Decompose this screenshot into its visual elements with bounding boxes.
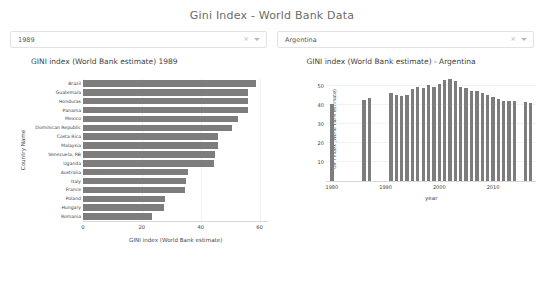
bar[interactable] [83,98,248,105]
bar-row[interactable]: Dominican Republic [83,124,268,131]
bar[interactable] [481,93,484,181]
y-tick-label: 20 [318,140,327,146]
bar[interactable] [438,84,441,181]
bar-row[interactable]: Uganda [83,160,268,167]
bar[interactable] [83,125,232,132]
bar[interactable] [83,187,185,194]
bar[interactable] [416,87,419,181]
bar[interactable] [529,103,532,181]
country-select-value: Argentina [278,36,317,44]
bar[interactable] [411,89,414,181]
x-tick-label: 0 [81,224,84,230]
bar-category-label: Romania [61,213,83,220]
gini-by-country-chart: GINI index (World Bank estimate) 1989 Co… [0,55,292,221]
bar[interactable] [459,87,462,181]
hbar-bars: BrazilGuatemalaHondurasPanamaMexicoDomin… [83,79,268,221]
x-axis: 1980199020002010 [326,181,536,182]
country-select-icons: × [510,36,533,43]
bar-row[interactable]: France [83,186,268,193]
chevron-down-icon[interactable] [521,38,527,41]
country-select[interactable]: Argentina × [277,31,534,48]
bar-row[interactable]: Panama [83,107,268,114]
bar-row[interactable]: Venezuela, RB [83,151,268,158]
bar[interactable] [362,100,365,181]
x-axis-label: year [326,195,536,201]
bar-category-label: Venezuela, RB [48,151,83,158]
bar-category-label: Honduras [59,98,83,105]
chevron-down-icon[interactable] [254,38,260,41]
hbar-plot-area: Country Name BrazilGuatemalaHondurasPana… [26,79,292,221]
bar[interactable] [502,101,505,181]
y-tick-label: 40 [318,102,327,108]
bar[interactable] [83,169,188,176]
gini-timeseries-chart: GINI index (World Bank estimate) - Argen… [292,55,544,221]
bar[interactable] [448,79,451,181]
bar-category-label: Australia [61,169,83,176]
bar-row[interactable]: Romania [83,213,268,220]
bar-row[interactable]: Poland [83,195,268,202]
y-gridline [326,85,536,86]
bar[interactable] [83,178,186,185]
bar[interactable] [83,196,165,203]
year-select-icons: × [243,36,266,43]
bar[interactable] [497,99,500,181]
bar-row[interactable]: Australia [83,169,268,176]
bar-category-label: Dominican Republic [35,124,83,131]
bar[interactable] [83,151,215,158]
bar-category-label: Hungary [61,204,83,211]
bar-row[interactable]: Malaysia [83,142,268,149]
bar-category-label: Italy [71,178,83,185]
bar[interactable] [330,104,333,181]
bar[interactable] [83,89,248,96]
bar[interactable] [83,80,256,87]
bar-category-label: France [66,186,83,193]
x-axis: 0204060 [83,221,268,223]
bar[interactable] [83,204,164,211]
page-title: Gini Index - World Bank Data [0,0,544,22]
bar[interactable] [427,85,430,181]
bar[interactable] [83,133,218,140]
bar[interactable] [513,101,516,181]
clear-icon[interactable]: × [510,36,516,43]
bar[interactable] [454,81,457,181]
chart-title: GINI index (World Bank estimate) - Argen… [306,57,544,66]
bar-row[interactable]: Mexico [83,115,268,122]
bar-category-label: Poland [66,195,83,202]
y-axis-label: Country Name [20,130,26,171]
bar[interactable] [422,88,425,181]
bar-category-label: Uganda [63,160,83,167]
year-select-value: 1989 [11,36,35,44]
bar[interactable] [432,87,435,181]
bar-row[interactable]: Hungary [83,204,268,211]
bar[interactable] [405,95,408,181]
bar[interactable] [475,91,478,181]
y-tick-label: 50 [318,83,327,89]
charts-container: GINI index (World Bank estimate) 1989 Co… [0,55,544,221]
bar[interactable] [470,91,473,181]
bar[interactable] [83,116,238,123]
x-axis-label: GINI index (World Bank estimate) [83,237,268,243]
bar[interactable] [83,107,248,114]
clear-icon[interactable]: × [243,36,249,43]
bar[interactable] [524,102,527,181]
bar[interactable] [400,96,403,181]
bar[interactable] [507,101,510,181]
x-tick-label: 40 [197,224,204,230]
bar[interactable] [395,95,398,181]
bar-row[interactable]: Costa Rica [83,133,268,140]
bar[interactable] [491,97,494,181]
bar[interactable] [83,213,152,220]
year-select[interactable]: 1989 × [10,31,267,48]
bar[interactable] [443,80,446,181]
bar[interactable] [486,95,489,181]
bar-row[interactable]: Honduras [83,98,268,105]
x-tick-label: 20 [139,224,146,230]
bar[interactable] [83,142,218,149]
bar[interactable] [464,88,467,181]
bar-row[interactable]: Guatemala [83,89,268,96]
bar[interactable] [368,98,371,181]
bar[interactable] [389,93,392,181]
bar-row[interactable]: Brazil [83,80,268,87]
bar[interactable] [83,160,214,167]
bar-row[interactable]: Italy [83,178,268,185]
